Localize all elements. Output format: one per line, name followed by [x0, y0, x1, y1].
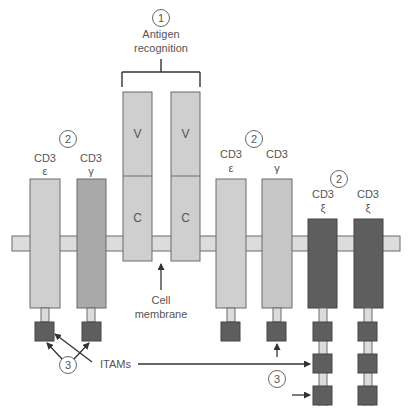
svg-text:2: 2 — [65, 133, 71, 145]
cd3-epsilon-right-name: CD3 — [220, 148, 242, 160]
itam-box — [35, 322, 54, 341]
cd3-epsilon-left-greek: ε — [43, 165, 48, 177]
itam-box — [313, 354, 332, 373]
cd3-xi-left-greek: ξ — [321, 202, 326, 214]
antigen-bracket — [122, 59, 200, 87]
svg-text:2: 2 — [251, 133, 257, 145]
svg-text:3: 3 — [65, 359, 71, 371]
cd3-xi-right-chain — [354, 219, 383, 414]
callout-3-right: 3 — [269, 371, 286, 388]
cd3-gamma-right-name: CD3 — [266, 148, 288, 160]
cd3-xi-left-chain — [308, 219, 337, 414]
callout-3-left: 3 — [60, 357, 77, 374]
c-domain-label: C — [133, 211, 142, 225]
cd3-gamma-right-greek: γ — [274, 162, 280, 174]
tcr-diagram: 1 Antigen recognition V C V C Cell membr… — [0, 0, 415, 418]
cd3-gamma-left-greek: γ — [88, 165, 94, 177]
cd3-epsilon-right-greek: ε — [229, 162, 234, 174]
itam-box — [358, 354, 377, 373]
callout-2-left: 2 — [60, 131, 77, 148]
cell-label-line1: Cell — [152, 294, 171, 306]
cd3-xi-right-name: CD3 — [357, 188, 379, 200]
itam-box — [82, 322, 101, 341]
callout-1: 1 — [153, 10, 170, 27]
cd3-xi-right-greek: ξ — [366, 202, 371, 214]
tcr-chain-right: V C — [171, 92, 200, 261]
callout-2-middle: 2 — [246, 131, 263, 148]
antigen-label-line2: recognition — [134, 42, 188, 54]
cd3-gamma-right-chain — [262, 179, 292, 341]
itam-box — [267, 322, 286, 341]
cd3-epsilon-left-name: CD3 — [34, 152, 56, 164]
v-domain-label: V — [181, 127, 189, 141]
cd3-gamma-left-chain — [77, 179, 106, 341]
cell-label-line2: membrane — [135, 308, 188, 320]
cell-membrane — [12, 236, 400, 251]
cd3-xi-left-name: CD3 — [312, 188, 334, 200]
itam-box — [358, 322, 377, 341]
c-domain-label: C — [181, 211, 190, 225]
cd3-gamma-left-name: CD3 — [80, 152, 102, 164]
itam-box — [313, 386, 332, 405]
svg-text:1: 1 — [158, 12, 164, 24]
v-domain-label: V — [133, 127, 141, 141]
itam-box — [221, 322, 240, 341]
svg-text:2: 2 — [336, 173, 342, 185]
cd3-epsilon-left-chain — [30, 179, 60, 341]
cd3-epsilon-right-chain — [216, 179, 246, 341]
antigen-label-line1: Antigen — [142, 28, 179, 40]
svg-text:3: 3 — [274, 373, 280, 385]
tcr-chain-left: V C — [123, 92, 152, 261]
itam-box — [313, 322, 332, 341]
itam-box — [358, 386, 377, 405]
callout-2-right: 2 — [331, 171, 348, 188]
itams-label: ITAMs — [100, 358, 131, 370]
